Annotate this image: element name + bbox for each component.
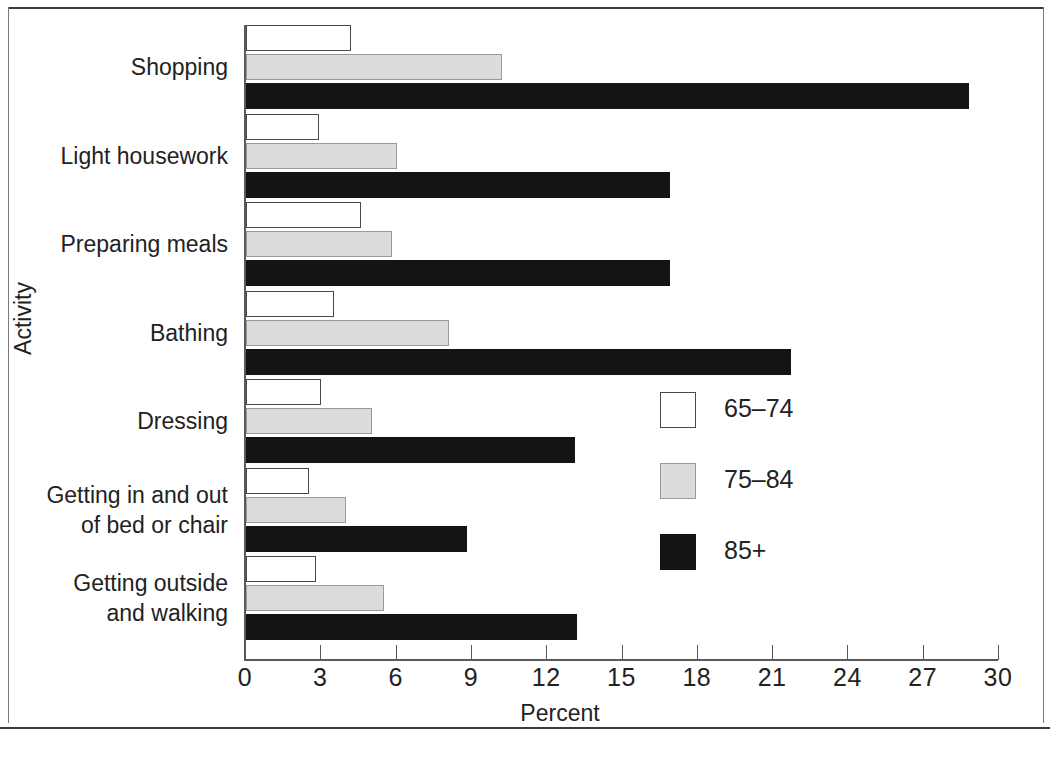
bar-group: Shopping [0,25,1050,109]
bar-s85 [246,260,670,286]
x-tick-label: 3 [290,663,350,692]
x-tick-label: 18 [667,663,727,692]
x-tick-label: 6 [366,663,426,692]
x-tick-mark [622,645,623,660]
x-tick-label: 27 [893,663,953,692]
bar-group: Getting outsideand walking [0,556,1050,640]
x-tick-label: 12 [516,663,576,692]
category-label-line: Dressing [0,406,228,436]
white-square-swatch [660,392,696,428]
bar-s75 [246,408,372,434]
bar-s75 [246,54,502,80]
gray-square-swatch [660,463,696,499]
bar-s65 [246,202,361,228]
bar-s75 [246,143,397,169]
bar-s75 [246,320,449,346]
x-tick-label: 21 [742,663,802,692]
bar-s75 [246,497,346,523]
bar-s65 [246,291,334,317]
x-tick-label: 15 [592,663,652,692]
bar-s85 [246,172,670,198]
bar-s85 [246,349,791,375]
category-label-line: Shopping [0,52,228,82]
x-tick-mark [396,645,397,660]
category-label-line: and walking [0,598,228,628]
x-axis-title: Percent [0,700,1050,727]
category-label: Getting outsideand walking [0,568,228,628]
bar-s85 [246,614,577,640]
x-tick-label: 9 [441,663,501,692]
category-label-line: Getting outside [0,568,228,598]
category-label: Light housework [0,141,228,171]
bar-s75 [246,231,392,257]
bar-s65 [246,468,309,494]
bar-s75 [246,585,384,611]
bar-s85 [246,526,467,552]
category-label: Dressing [0,406,228,436]
x-tick-mark [245,645,246,660]
x-tick-mark [847,645,848,660]
black-square-swatch [660,534,696,570]
bar-s85 [246,83,969,109]
category-label: Getting in and outof bed or chair [0,480,228,540]
bar-s65 [246,25,351,51]
x-tick-mark [998,645,999,660]
bar-chart-plot: 036912151821242730 ShoppingLight housewo… [0,0,1050,758]
y-axis-title: Activity [10,229,37,409]
x-tick-label: 0 [215,663,275,692]
x-tick-mark [471,645,472,660]
x-tick-label: 24 [817,663,877,692]
bar-group: Getting in and outof bed or chair [0,468,1050,552]
category-label: Shopping [0,52,228,82]
bar-group: Light housework [0,114,1050,198]
bar-group: Dressing [0,379,1050,463]
x-tick-mark [546,645,547,660]
legend-label: 75–84 [724,465,794,494]
x-tick-mark [697,645,698,660]
bar-s65 [246,379,321,405]
legend-label: 65–74 [724,394,794,423]
legend-label: 85+ [724,536,766,565]
bar-group: Preparing meals [0,202,1050,286]
category-label-line: of bed or chair [0,510,228,540]
bar-s65 [246,556,316,582]
x-tick-mark [320,645,321,660]
x-axis-title-text: Percent [520,700,599,727]
x-tick-mark [772,645,773,660]
category-label-line: Getting in and out [0,480,228,510]
bar-group: Bathing [0,291,1050,375]
category-label-line: Light housework [0,141,228,171]
x-tick-label: 30 [968,663,1028,692]
x-tick-mark [923,645,924,660]
bar-s85 [246,437,575,463]
bar-s65 [246,114,319,140]
